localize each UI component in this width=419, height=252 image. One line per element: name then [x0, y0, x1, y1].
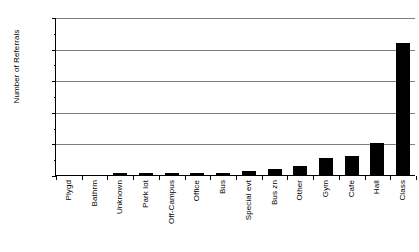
x-label-slot: Plygd [55, 180, 81, 252]
bar-slot [339, 18, 365, 175]
bar-slot [82, 18, 108, 175]
bar-slot [365, 18, 391, 175]
x-label-slot: Office [184, 180, 210, 252]
x-label-slot: Hall [364, 180, 390, 252]
bar [370, 143, 384, 175]
bar-slot [236, 18, 262, 175]
bar [139, 173, 153, 175]
bar [319, 158, 333, 175]
x-axis-category-label: Other [295, 180, 304, 201]
bar-slot [210, 18, 236, 175]
x-label-slot: Gym [312, 180, 338, 252]
x-tick [416, 176, 417, 180]
x-label-slot: Bus [209, 180, 235, 252]
x-axis-category-label: Unknown [115, 180, 124, 214]
x-axis-category-label: Cafe [346, 180, 355, 197]
x-axis-labels: PlygdBathrmUnknownPark lotOff-CampusOffi… [55, 180, 415, 252]
x-label-slot: Class [389, 180, 415, 252]
bar-slot [262, 18, 288, 175]
bars [56, 18, 415, 175]
bar-slot [159, 18, 185, 175]
bar-slot [133, 18, 159, 175]
x-label-slot: Off-Campus [158, 180, 184, 252]
bar-slot [107, 18, 133, 175]
x-label-slot: Unknown [106, 180, 132, 252]
bar [396, 43, 410, 175]
x-axis-category-label: Class [398, 180, 407, 201]
bar-slot [313, 18, 339, 175]
bar [165, 173, 179, 175]
x-axis-category-label: Gym [320, 180, 329, 197]
bar [293, 166, 307, 175]
bar [345, 156, 359, 175]
x-axis-category-label: Hall [372, 180, 381, 194]
x-axis-category-label: Plygd [63, 180, 72, 201]
x-axis-category-label: Off-Campus [166, 180, 175, 224]
x-label-slot: Special evt [235, 180, 261, 252]
bar [268, 169, 282, 175]
x-axis-category-label: Park lot [140, 180, 149, 208]
x-label-slot: Bathrm [81, 180, 107, 252]
bar-slot [185, 18, 211, 175]
x-axis-category-label: Office [192, 180, 201, 201]
bar [216, 173, 230, 175]
x-label-slot: Park lot [132, 180, 158, 252]
bar [113, 173, 127, 175]
bar-slot [287, 18, 313, 175]
bar-slot [390, 18, 416, 175]
bar [242, 171, 256, 175]
y-axis-title: Number of Referrals [12, 0, 21, 137]
plot-area: 02004006008001000 [55, 18, 415, 176]
x-axis-category-label: Bus [218, 180, 227, 194]
x-axis-category-label: Bus zn [269, 180, 278, 205]
x-label-slot: Cafe [338, 180, 364, 252]
x-label-slot: Bus zn [261, 180, 287, 252]
bar [190, 173, 204, 175]
x-axis-category-label: Bathrm [89, 180, 98, 206]
x-axis-category-label: Special evt [243, 180, 252, 220]
bar-slot [56, 18, 82, 175]
x-label-slot: Other [286, 180, 312, 252]
bar-chart: Number of Referrals 02004006008001000 Pl… [0, 0, 419, 252]
